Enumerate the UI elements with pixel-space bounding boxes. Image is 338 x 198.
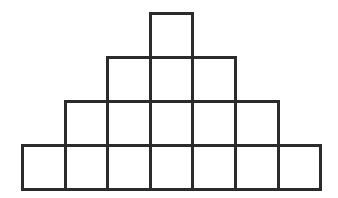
pyramid-square bbox=[149, 144, 195, 191]
pyramid-square bbox=[149, 56, 195, 103]
pyramid-square bbox=[191, 56, 237, 103]
pyramid-square bbox=[64, 144, 110, 191]
pyramid-square bbox=[64, 100, 110, 147]
pyramid-square bbox=[106, 100, 152, 147]
pyramid-square bbox=[234, 144, 280, 191]
pyramid-square bbox=[149, 100, 195, 147]
pyramid-square bbox=[191, 144, 237, 191]
pyramid-square bbox=[149, 12, 195, 59]
pyramid-square bbox=[106, 144, 152, 191]
pyramid-square bbox=[191, 100, 237, 147]
pyramid-square bbox=[234, 100, 280, 147]
pyramid-square bbox=[21, 144, 67, 191]
pyramid-square bbox=[106, 56, 152, 103]
pyramid-square bbox=[277, 144, 323, 191]
